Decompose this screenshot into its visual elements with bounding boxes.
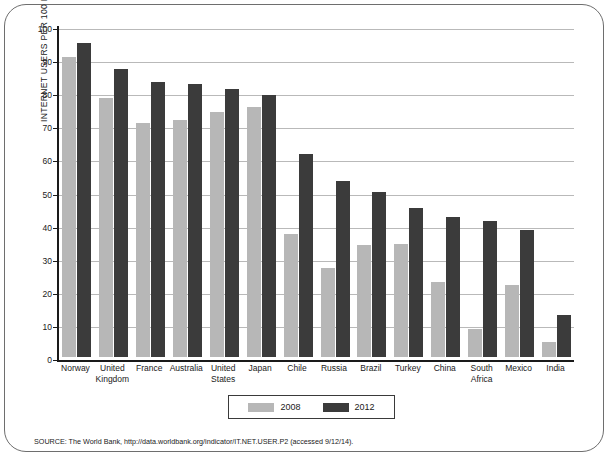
ytick-label-90: 90 bbox=[43, 57, 52, 67]
bar-2008 bbox=[468, 329, 482, 357]
bar-2008 bbox=[394, 244, 408, 357]
bar-2012 bbox=[483, 221, 497, 357]
bar-2012 bbox=[151, 82, 165, 357]
bar-2008 bbox=[431, 282, 445, 357]
ytick-label-20: 20 bbox=[43, 289, 52, 299]
bar-group bbox=[170, 26, 207, 357]
bar-series-container bbox=[57, 26, 574, 360]
bar-2012 bbox=[77, 43, 91, 357]
bar-2012 bbox=[299, 154, 313, 357]
ytick-mark-0 bbox=[53, 360, 57, 361]
legend-swatch-2012 bbox=[323, 403, 349, 412]
plot-region: 0102030405060708090100 bbox=[57, 26, 574, 360]
bar-2008 bbox=[357, 245, 371, 357]
bar-2008 bbox=[99, 98, 113, 358]
x-axis-label-line: Kingdom bbox=[90, 374, 135, 385]
bar-2008 bbox=[247, 107, 261, 357]
bar-2012 bbox=[114, 69, 128, 357]
bar-2008 bbox=[62, 57, 76, 357]
chart-area: INTERNET USERS PER 100 PEOPLE 0102030405… bbox=[57, 26, 574, 360]
bar-2012 bbox=[557, 315, 571, 357]
x-axis-label-line: India bbox=[533, 363, 578, 374]
ytick-label-60: 60 bbox=[43, 156, 52, 166]
x-axis-label: India bbox=[533, 363, 578, 374]
figure-frame: INTERNET USERS PER 100 PEOPLE 0102030405… bbox=[4, 4, 604, 452]
bar-2012 bbox=[225, 89, 239, 357]
bar-group bbox=[244, 26, 281, 357]
x-axis-label-line: States bbox=[201, 374, 246, 385]
bar-2008 bbox=[284, 234, 298, 357]
bar-2008 bbox=[542, 342, 556, 357]
bar-2008 bbox=[173, 120, 187, 357]
bar-2012 bbox=[520, 230, 534, 357]
legend-label-2012: 2012 bbox=[355, 402, 375, 412]
bar-group bbox=[428, 26, 465, 357]
bar-2012 bbox=[446, 217, 460, 357]
bar-2012 bbox=[409, 208, 423, 357]
bar-group bbox=[465, 26, 502, 357]
ytick-label-0: 0 bbox=[47, 355, 52, 365]
legend-label-2008: 2008 bbox=[280, 402, 300, 412]
bar-2008 bbox=[505, 285, 519, 357]
bar-group bbox=[354, 26, 391, 357]
legend: 20082012 bbox=[228, 395, 395, 419]
x-axis-label-line: Africa bbox=[459, 374, 504, 385]
legend-item-2008: 2008 bbox=[248, 402, 300, 412]
gridline-0 bbox=[57, 360, 574, 362]
bar-2008 bbox=[210, 112, 224, 357]
bar-group bbox=[96, 26, 133, 357]
ytick-label-40: 40 bbox=[43, 223, 52, 233]
bar-group bbox=[318, 26, 355, 357]
legend-swatch-2008 bbox=[248, 403, 274, 412]
bar-group bbox=[539, 26, 576, 357]
bar-2008 bbox=[136, 123, 150, 357]
bar-group bbox=[391, 26, 428, 357]
ytick-label-30: 30 bbox=[43, 256, 52, 266]
ytick-label-80: 80 bbox=[43, 90, 52, 100]
source-note: SOURCE: The World Bank, http://data.worl… bbox=[34, 437, 353, 446]
bar-group bbox=[59, 26, 96, 357]
legend-item-2012: 2012 bbox=[323, 402, 375, 412]
ytick-label-50: 50 bbox=[43, 190, 52, 200]
x-axis-labels: NorwayUnitedKingdomFranceAustraliaUnited… bbox=[57, 363, 574, 393]
bar-2012 bbox=[336, 181, 350, 357]
ytick-label-10: 10 bbox=[43, 322, 52, 332]
bar-2008 bbox=[321, 268, 335, 357]
ytick-label-100: 100 bbox=[38, 24, 52, 34]
bar-2012 bbox=[262, 95, 276, 357]
bar-group bbox=[502, 26, 539, 357]
bar-group bbox=[281, 26, 318, 357]
bar-2012 bbox=[372, 192, 386, 357]
bar-group bbox=[133, 26, 170, 357]
bar-group bbox=[207, 26, 244, 357]
bar-2012 bbox=[188, 84, 202, 357]
ytick-label-70: 70 bbox=[43, 123, 52, 133]
